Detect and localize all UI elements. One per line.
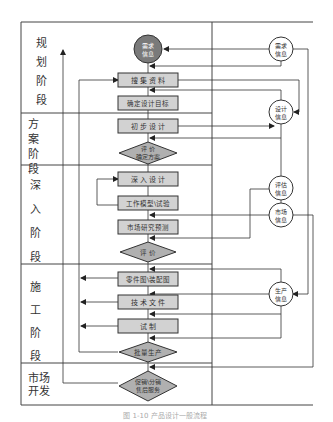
svg-text:信息: 信息: [275, 216, 287, 224]
svg-text:信息: 信息: [275, 50, 287, 58]
node-evaluate-scheme[interactable]: 评 价 确定方案: [119, 142, 177, 164]
info-demand[interactable]: 需求 信息: [269, 37, 293, 61]
stage-label-scheme: 方 案 阶 段: [28, 117, 39, 176]
svg-text:施: 施: [30, 281, 41, 294]
svg-text:零件图\装配图: 零件图\装配图: [126, 275, 170, 284]
svg-text:促销\分销: 促销\分销: [135, 378, 161, 386]
svg-text:方: 方: [28, 117, 39, 131]
svg-text:批量生产: 批量生产: [134, 348, 162, 357]
svg-text:设计: 设计: [275, 105, 287, 113]
node-define-target[interactable]: 确定设计目标: [118, 96, 178, 110]
svg-text:入: 入: [30, 203, 41, 216]
svg-text:开发: 开发: [28, 384, 50, 398]
node-tech-docs[interactable]: 技 术 文 件: [118, 295, 178, 309]
svg-text:工: 工: [30, 304, 41, 317]
figure-caption: 图 1-10 产品设计一般流程: [123, 411, 206, 420]
svg-text:划: 划: [36, 56, 47, 69]
stage-label-market: 市场 开发: [28, 371, 50, 398]
info-eval[interactable]: 评估 信息: [269, 176, 293, 200]
svg-text:初 步 设 计: 初 步 设 计: [131, 122, 166, 131]
node-collect-data[interactable]: 搜 集 资 料: [118, 73, 178, 87]
svg-text:案: 案: [28, 132, 39, 146]
stage-label-deep: 深 入 阶 段: [30, 179, 41, 264]
node-demand-info-main[interactable]: 需求 信息: [134, 35, 162, 63]
node-work-model[interactable]: 工作模型\试验: [118, 196, 178, 210]
svg-text:评 价: 评 价: [140, 249, 156, 257]
svg-text:规: 规: [36, 36, 47, 50]
svg-text:市场: 市场: [275, 208, 287, 216]
svg-text:段: 段: [28, 162, 39, 176]
svg-text:段: 段: [30, 349, 41, 363]
svg-text:技 术 文 件: 技 术 文 件: [131, 298, 166, 307]
node-trial[interactable]: 试 制: [118, 319, 178, 333]
svg-text:确定方案: 确定方案: [136, 153, 160, 161]
svg-text:深 入 设 计: 深 入 设 计: [131, 175, 166, 184]
svg-text:市场: 市场: [28, 371, 50, 385]
info-market[interactable]: 市场 信息: [269, 203, 293, 227]
svg-text:段: 段: [36, 93, 47, 107]
info-production[interactable]: 生产 信息: [269, 282, 293, 306]
svg-text:段: 段: [30, 250, 41, 264]
stage-label-planning: 规 划 阶 段: [36, 36, 47, 107]
node-market-forecast[interactable]: 市场研究预测: [118, 220, 178, 234]
svg-text:需求: 需求: [142, 42, 154, 50]
node-parts-drawing[interactable]: 零件图\装配图: [118, 272, 178, 286]
svg-text:深: 深: [30, 179, 41, 192]
svg-text:评估: 评估: [275, 181, 287, 189]
svg-text:确定设计目标: 确定设计目标: [127, 99, 169, 108]
node-sales-service[interactable]: 促销\分销 售后服务: [119, 371, 177, 401]
svg-text:阶: 阶: [28, 147, 39, 161]
product-design-flowchart: 规 划 阶 段 方 案 阶 段 深 入 阶 段 施 工 阶 段 市场 开发: [0, 0, 333, 422]
svg-text:信息: 信息: [275, 295, 287, 303]
svg-text:试 制: 试 制: [140, 322, 156, 331]
svg-text:信息: 信息: [142, 50, 154, 58]
svg-text:阶: 阶: [36, 74, 47, 88]
node-deep-design[interactable]: 深 入 设 计: [118, 172, 178, 186]
node-evaluate[interactable]: 评 价: [120, 242, 176, 262]
svg-text:搜 集 资 料: 搜 集 资 料: [131, 76, 166, 85]
svg-text:评 价: 评 价: [141, 145, 155, 153]
svg-text:阶: 阶: [30, 226, 41, 240]
node-mass-production[interactable]: 批量生产: [119, 342, 177, 362]
svg-text:生产: 生产: [275, 287, 287, 295]
node-initial-design[interactable]: 初 步 设 计: [118, 119, 178, 133]
svg-text:需求: 需求: [275, 42, 287, 50]
svg-text:工作模型\试验: 工作模型\试验: [126, 199, 170, 208]
svg-text:市场研究预测: 市场研究预测: [127, 223, 169, 232]
stage-label-construction: 施 工 阶 段: [30, 281, 41, 363]
svg-text:信息: 信息: [275, 113, 287, 121]
svg-text:阶: 阶: [30, 326, 41, 340]
info-design[interactable]: 设计 信息: [269, 100, 293, 124]
svg-text:信息: 信息: [275, 189, 287, 197]
svg-text:售后服务: 售后服务: [136, 386, 160, 394]
